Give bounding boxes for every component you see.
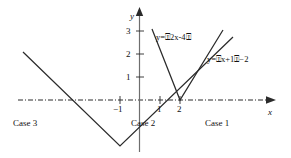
curve-label-abs-x-plus-1-minus-2: y=⍐x+1⍐−2 [207, 55, 248, 64]
y-tick-label-2: 2 [126, 50, 131, 59]
y-axis-label: y [130, 12, 134, 21]
case-label-1: Case 1 [205, 119, 229, 128]
x-axis-arrow [266, 96, 276, 104]
absolute-value-cases-figure: y x −1 1 2 1 2 3 y=⍐2x-4⍐ y=⍐x+1⍐−2 Case… [0, 0, 291, 158]
case-label-3: Case 3 [13, 119, 37, 128]
case-label-2: Case 2 [131, 119, 155, 128]
y-tick-label-3: 3 [126, 27, 131, 36]
y-axis-arrow [136, 7, 143, 16]
y-tick-label-1: 1 [126, 73, 131, 82]
graph-canvas [0, 0, 291, 158]
x-tick-label-2: 2 [177, 105, 182, 114]
x-tick-label-minus-1: −1 [113, 105, 123, 114]
x-axis [18, 96, 276, 104]
x-axis-label: x [268, 108, 272, 117]
x-tick-label-1: 1 [157, 105, 162, 114]
curve-label-abs-2x-minus-4: y=⍐2x-4⍐ [156, 33, 191, 42]
